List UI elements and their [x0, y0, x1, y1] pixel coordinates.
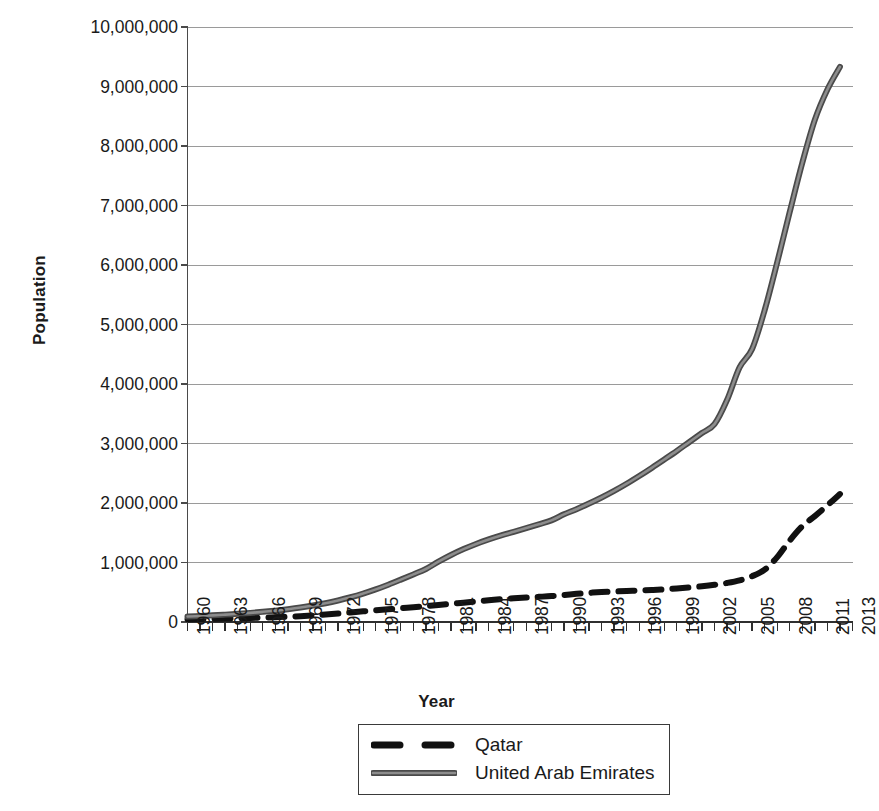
x-tick-label: 1987	[533, 597, 551, 635]
solid-gray-line-icon	[371, 764, 457, 782]
x-tick-label: 2011	[834, 598, 852, 635]
x-tick-label: 1975	[383, 597, 401, 635]
x-tick-label: 1981	[458, 597, 476, 635]
dashed-black-line-icon	[371, 736, 457, 754]
x-tick-label: 1960	[195, 597, 213, 635]
chart-legend: QatarUnited Arab Emirates	[358, 724, 670, 795]
x-tick-label: 1969	[307, 597, 325, 635]
x-tick-label: 2013	[860, 597, 878, 635]
legend-label: Qatar	[475, 734, 523, 756]
x-tick-label: 1963	[232, 597, 250, 635]
x-tick-label: 2005	[759, 597, 777, 635]
legend-item: Qatar	[371, 731, 655, 759]
x-tick-label: 1990	[571, 597, 589, 635]
x-tick-label: 2002	[721, 597, 739, 635]
x-axis-title: Year	[0, 692, 873, 712]
x-tick-label: 1978	[420, 597, 438, 635]
x-tick-label: 1972	[345, 597, 363, 635]
x-tick-label: 1984	[496, 597, 514, 635]
x-tick-label: 1996	[646, 597, 664, 635]
legend-item: United Arab Emirates	[371, 759, 655, 787]
x-tick-label: 1993	[609, 597, 627, 635]
x-tick-label: 1999	[684, 597, 702, 635]
x-tick-label: 1966	[270, 597, 288, 635]
x-tick-label: 2008	[797, 597, 815, 635]
legend-label: United Arab Emirates	[475, 762, 655, 784]
